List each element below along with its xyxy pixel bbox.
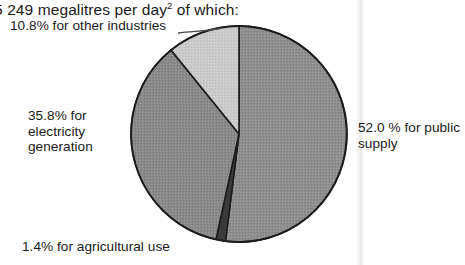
chart-page: 5 249 megalitres per day2 of which: — [0, 0, 465, 265]
label-agricultural-use: 1.4% for agricultural use — [22, 239, 170, 255]
label-electricity-generation: 35.8% for electricity generation — [28, 108, 124, 155]
pie-slice-public-supply — [226, 26, 347, 242]
label-other-industries: 10.8% for other industries — [10, 18, 166, 34]
label-public-supply: 52.0 % for public supply — [358, 120, 462, 151]
